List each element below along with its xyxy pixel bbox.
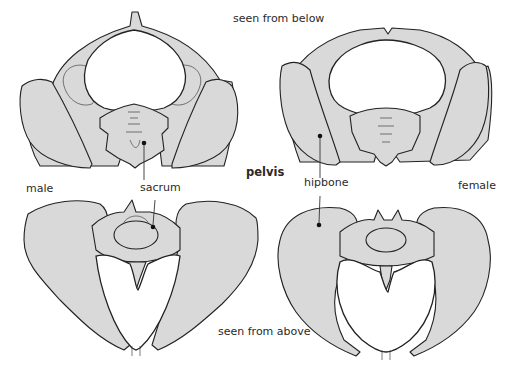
- sacrum-marker-dot-bottom: [151, 225, 156, 230]
- pelvis-illustrations: .bone { fill: #d9d9d9; stroke: #222; str…: [0, 0, 517, 370]
- sacrum-marker-dot: [142, 141, 147, 146]
- part-label-hipbone: hipbone: [304, 176, 348, 189]
- diagram-title: pelvis: [246, 165, 284, 179]
- part-label-sacrum: sacrum: [140, 181, 181, 194]
- view-label-bottom: seen from above: [218, 325, 311, 338]
- view-label-top: seen from below: [233, 12, 324, 25]
- sex-label-female: female: [458, 179, 496, 192]
- hipbone-marker-dot-bottom: [317, 223, 322, 228]
- male-pelvis-below: [20, 12, 238, 180]
- sex-label-male: male: [26, 182, 53, 195]
- hipbone-marker-dot-top: [318, 134, 323, 139]
- female-pelvis-below: [280, 28, 492, 178]
- pelvis-diagram: .bone { fill: #d9d9d9; stroke: #222; str…: [0, 0, 517, 370]
